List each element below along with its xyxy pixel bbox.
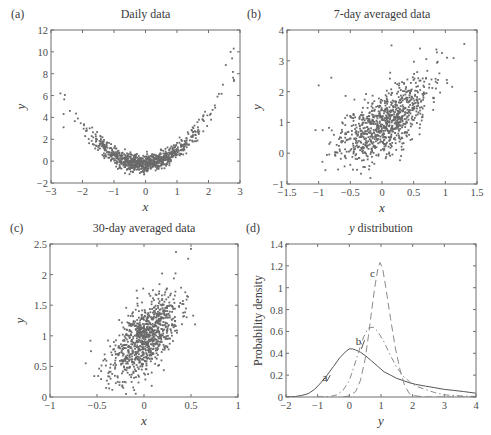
data-point [157, 305, 159, 307]
data-point [385, 126, 387, 128]
data-point [106, 380, 108, 382]
data-point [185, 141, 187, 143]
data-point [104, 146, 106, 148]
data-point [132, 171, 134, 173]
data-point [336, 144, 338, 146]
x-axis-label: y [376, 413, 384, 428]
data-point [375, 106, 377, 108]
plot-area [315, 43, 466, 179]
data-point [147, 373, 149, 375]
data-point [133, 371, 135, 373]
data-point [120, 351, 122, 353]
data-point [125, 355, 127, 357]
data-point [402, 104, 404, 106]
data-point [391, 122, 393, 124]
data-point [191, 129, 193, 131]
data-point [129, 337, 131, 339]
data-point [391, 92, 393, 94]
data-point [132, 387, 134, 389]
data-point [406, 120, 408, 122]
data-point [112, 151, 114, 153]
data-point [359, 128, 361, 130]
data-point [157, 348, 159, 350]
data-point [143, 331, 145, 333]
data-point [169, 162, 171, 164]
data-point [122, 385, 124, 387]
data-point [152, 348, 154, 350]
data-point [141, 310, 143, 312]
panel-c-30-day-averaged: (c)30-day averaged data−1−0.500.5100.511… [10, 221, 241, 428]
data-point [134, 169, 136, 171]
data-point [370, 127, 372, 129]
data-point [362, 107, 364, 109]
data-point [365, 142, 367, 144]
data-point [170, 293, 172, 295]
data-point [198, 119, 200, 121]
y-tick-label: 2 [43, 134, 48, 145]
data-point [171, 332, 173, 334]
data-point [368, 169, 370, 171]
data-point [373, 129, 375, 131]
data-point [129, 156, 131, 158]
data-point [377, 142, 379, 144]
data-point [385, 115, 387, 117]
data-point [389, 143, 391, 145]
data-point [419, 80, 421, 82]
data-point [407, 97, 409, 99]
data-point [382, 118, 384, 120]
data-point [412, 108, 414, 110]
data-point [95, 145, 97, 147]
data-point [168, 296, 170, 298]
data-point [422, 78, 424, 80]
x-tick-label: 0 [143, 186, 148, 197]
data-point [174, 324, 176, 326]
data-point [412, 105, 414, 107]
data-point [169, 305, 171, 307]
data-point [128, 359, 130, 361]
data-point [166, 335, 168, 337]
data-point [386, 117, 388, 119]
data-point [95, 135, 97, 137]
data-point [419, 107, 421, 109]
data-point [114, 351, 116, 353]
data-point [345, 95, 347, 97]
data-point [371, 105, 373, 107]
data-point [186, 299, 188, 301]
data-point [124, 328, 126, 330]
data-point [164, 159, 166, 161]
data-point [107, 340, 109, 342]
data-point [63, 113, 65, 115]
data-point [146, 318, 148, 320]
data-point [149, 326, 151, 328]
data-point [174, 320, 176, 322]
data-point [351, 125, 353, 127]
data-point [377, 105, 379, 107]
data-point [441, 52, 443, 54]
data-point [100, 136, 102, 138]
data-point [398, 96, 400, 98]
data-point [386, 96, 388, 98]
data-point [408, 129, 410, 131]
data-point [125, 160, 127, 162]
data-point [127, 351, 129, 353]
data-point [161, 341, 163, 343]
data-point [165, 163, 167, 165]
data-point [194, 324, 196, 326]
data-point [149, 335, 151, 337]
data-point [369, 165, 371, 167]
data-point [355, 124, 357, 126]
data-point [139, 366, 141, 368]
data-point [88, 142, 90, 144]
panel-title: 7-day averaged data [334, 7, 431, 21]
data-point [209, 114, 211, 116]
data-point [163, 336, 165, 338]
data-point [157, 336, 159, 338]
data-point [378, 130, 380, 132]
data-point [197, 140, 199, 142]
data-point [156, 352, 158, 354]
data-point [116, 148, 118, 150]
panel-letter: (b) [247, 7, 261, 21]
data-point [63, 126, 65, 128]
data-point [133, 377, 135, 379]
data-point [385, 145, 387, 147]
